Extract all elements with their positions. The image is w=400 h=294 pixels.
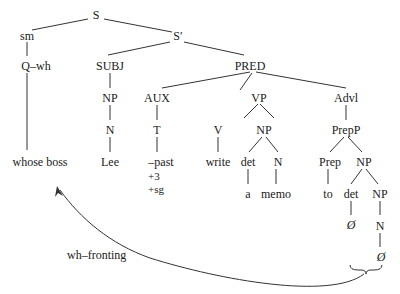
leaf-write: write [206,155,231,169]
node-v: V [214,123,223,137]
feature-person: +3 [148,170,160,182]
movement-label: wh–fronting [67,248,126,263]
leaf-whose-boss: whose boss [12,155,67,169]
node-t: T [153,123,160,137]
node-advl: Advl [334,91,358,105]
leaf-past: –past [148,155,173,169]
node-np-obj: NP [256,123,271,137]
node-s-prime: S′ [173,29,182,43]
leaf-null-n: Ø [377,250,386,264]
node-np-inner: NP [372,187,387,201]
node-det-pp: det [344,187,359,201]
node-vp: VP [251,91,266,105]
node-det-obj: det [241,155,256,169]
node-n-obj: N [274,155,283,169]
node-np-subj: NP [102,91,117,105]
leaf-to: to [323,187,332,201]
node-pred: PRED [235,59,266,73]
node-q-wh: Q–wh [21,59,50,73]
node-sm: sm [20,29,34,43]
tree-edges [0,0,400,294]
leaf-null-det: Ø [347,218,356,232]
node-n-inner: N [376,219,385,233]
leaf-a: a [245,187,250,201]
node-n-subj: N [106,123,115,137]
node-S: S [93,8,100,22]
leaf-memo: memo [261,187,291,201]
node-prepp: PrepP [332,123,361,137]
leaf-lee: Lee [101,155,119,169]
node-aux: AUX [144,91,170,105]
arrowhead-icon [55,186,63,197]
node-prep: Prep [319,155,341,169]
feature-number: +sg [148,183,164,195]
node-subj: SUBJ [96,59,124,73]
node-np-pp: NP [356,155,371,169]
